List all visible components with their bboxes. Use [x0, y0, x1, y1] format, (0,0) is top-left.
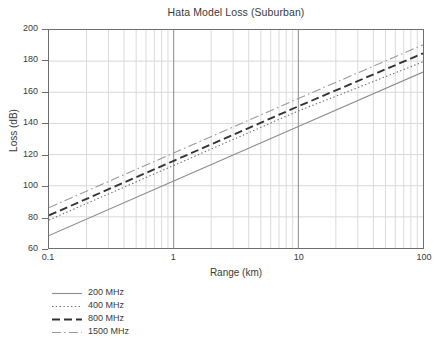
legend-item-800-mhz[interactable]: 800 MHz: [48, 312, 198, 325]
y-tick-label: 180: [4, 54, 38, 64]
data-series-layer: [49, 30, 423, 248]
y-tick-label: 160: [4, 86, 38, 96]
legend-label: 800 MHz: [88, 312, 124, 325]
y-tick-label: 60: [4, 243, 38, 253]
series-line-400-mhz: [49, 62, 423, 220]
series-line-1500-mhz: [49, 45, 423, 208]
x-tick-label: 0.1: [42, 252, 55, 262]
plot-area: [48, 29, 424, 249]
series-line-800-mhz: [49, 53, 423, 215]
x-tick-label: 100: [416, 252, 431, 262]
legend-item-200-mhz[interactable]: 200 MHz: [48, 286, 198, 299]
legend-label: 400 MHz: [88, 299, 124, 312]
y-tick-mark: [42, 249, 48, 250]
page-title: Hata Model Loss (Suburban): [48, 6, 424, 18]
y-tick-label: 200: [4, 23, 38, 33]
x-tick-label: 10: [294, 252, 304, 262]
y-tick-label: 100: [4, 180, 38, 190]
legend-label: 1500 MHz: [88, 325, 129, 338]
x-tick-label: 1: [171, 252, 176, 262]
legend-line-sample: [52, 312, 82, 325]
legend-line-sample: [52, 286, 82, 299]
x-axis-label: Range (km): [48, 267, 424, 278]
legend-line-sample: [52, 325, 82, 338]
y-tick-label: 120: [4, 149, 38, 159]
legend-label: 200 MHz: [88, 286, 124, 299]
legend-item-400-mhz[interactable]: 400 MHz: [48, 299, 198, 312]
y-tick-label: 80: [4, 212, 38, 222]
legend-line-sample: [52, 299, 82, 312]
chart-figure: Hata Model Loss (Suburban) Loss (dB) Ran…: [0, 0, 447, 345]
legend-item-1500-mhz[interactable]: 1500 MHz: [48, 325, 198, 338]
series-line-200-mhz: [49, 72, 423, 236]
y-tick-label: 140: [4, 117, 38, 127]
chart-legend: 200 MHz400 MHz800 MHz1500 MHz: [48, 286, 198, 338]
